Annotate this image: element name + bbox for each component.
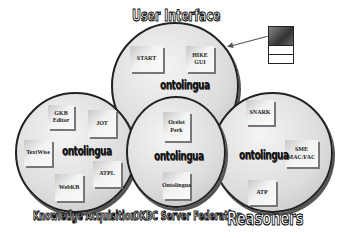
ontolingua-logo: ontolingua bbox=[160, 78, 210, 92]
item-hike-gui: HIKE GUI bbox=[186, 46, 214, 72]
ontolingua-logo: ontolingua bbox=[239, 148, 289, 162]
item-ocelot-perk: Ocelot Perk bbox=[163, 112, 190, 141]
item-start: START bbox=[130, 46, 163, 72]
arrow-head-icon bbox=[226, 42, 233, 49]
title-user-interface: User Interface bbox=[132, 6, 220, 26]
divider bbox=[269, 45, 293, 46]
title-knowledge-acquisition: Knowledge Acquisition bbox=[33, 209, 136, 223]
item-atp: ATP bbox=[248, 180, 276, 205]
arrow-connector bbox=[229, 36, 268, 47]
title-reasoners: Reasoners bbox=[227, 207, 304, 230]
divider bbox=[269, 54, 293, 55]
item-webkb: WebKB bbox=[55, 174, 83, 201]
item-snark: SNARK bbox=[246, 100, 274, 125]
user-terminal-icon bbox=[268, 26, 294, 64]
title-okbc-server-federation: OKBC Server Federation bbox=[133, 209, 242, 223]
item-jot: JOT bbox=[88, 110, 116, 137]
item-ontolingua: Ontolingua bbox=[163, 172, 190, 199]
item-atpl: ATPL bbox=[93, 161, 121, 187]
item-sme-macfac: SME MAC/FAC bbox=[285, 140, 318, 167]
ontolingua-logo: ontolingua bbox=[62, 144, 112, 158]
user-figure-icon bbox=[269, 27, 293, 45]
ontolingua-logo: ontolingua bbox=[154, 149, 204, 163]
item-gkb-editor: GKB Editor bbox=[48, 105, 74, 129]
item-textwise: TextWise bbox=[24, 140, 52, 166]
